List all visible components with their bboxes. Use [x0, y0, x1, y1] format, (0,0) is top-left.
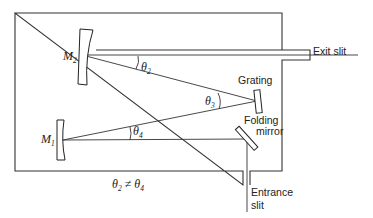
label-theta2: θ2	[141, 60, 151, 76]
label-theta4: θ4	[133, 124, 143, 140]
ray-grating-m1	[63, 101, 257, 140]
label-theta3: θ3	[205, 94, 215, 110]
theta4-arc	[130, 127, 131, 140]
theta2-arc	[136, 56, 139, 69]
label-m1: M1	[40, 132, 55, 148]
theta3-arc	[218, 93, 220, 109]
label-entrance-slit-2: slit	[251, 199, 264, 211]
ray-m2-grating	[86, 56, 257, 101]
ray-m1-folding	[63, 139, 247, 140]
label-m2: M2	[62, 49, 77, 65]
grating	[254, 90, 262, 114]
monochromator-diagram: M2 M1 θ2 θ3 θ4 Exit slit Grating Folding…	[0, 0, 373, 218]
label-folding-mirror-2: mirror	[256, 125, 284, 137]
condition-label: θ2 ≠ θ4	[112, 177, 144, 193]
label-exit-slit: Exit slit	[313, 45, 346, 57]
label-grating: Grating	[238, 74, 273, 86]
label-entrance-slit-1: Entrance	[251, 186, 293, 198]
